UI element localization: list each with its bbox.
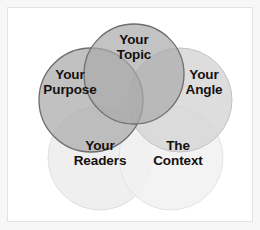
venn-diagram-canvas xyxy=(8,8,252,221)
venn-circle-your-topic[interactable] xyxy=(84,24,184,124)
venn-diagram-frame: Your Topic Your Purpose Your Angle Your … xyxy=(7,7,253,222)
figure-root: Your Topic Your Purpose Your Angle Your … xyxy=(0,0,260,230)
